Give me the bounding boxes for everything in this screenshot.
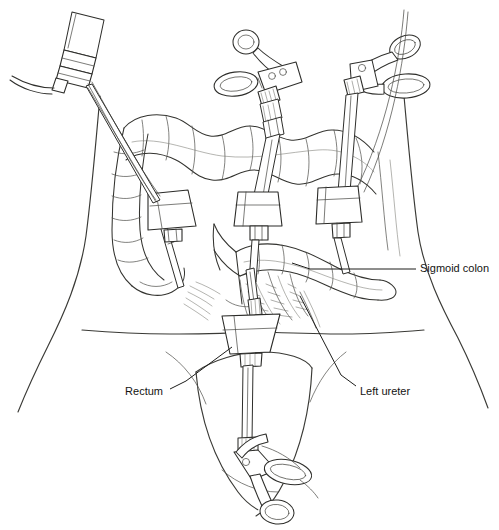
right-abdominal-contour [378, 152, 400, 256]
label-left-ureter: Left ureter [360, 385, 410, 397]
pelvic-tissue-strands [184, 282, 220, 320]
label-sigmoid-colon: Sigmoid colon [420, 262, 489, 274]
illustration-figure: Sigmoid colon Rectum Left ureter [0, 0, 499, 530]
port-right [316, 186, 362, 274]
label-rectum: Rectum [125, 385, 163, 397]
grasper-mid [213, 30, 302, 204]
transverse-colon [124, 115, 376, 194]
pelvic-instrument-shaft [246, 268, 262, 316]
sigmoid-colon [214, 224, 396, 326]
illustration-canvas: Sigmoid colon Rectum Left ureter [0, 0, 499, 530]
port-left [148, 190, 196, 288]
port-mid [234, 192, 282, 282]
leader-sigmoid-colon [292, 263, 416, 269]
